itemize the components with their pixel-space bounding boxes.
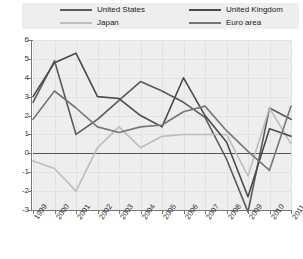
legend-column-left: United States Japan xyxy=(60,3,145,29)
y-tick-label-3: 3 xyxy=(3,93,29,101)
legend-item-united-states[interactable]: United States xyxy=(60,3,145,16)
y-tick-label-0: 0 xyxy=(3,149,29,157)
series-lines xyxy=(33,40,291,210)
y-tick-label-wrap: -3 xyxy=(0,206,29,214)
y-tick-label-wrap: 3 xyxy=(0,93,29,101)
y-tick-label-wrap: -2 xyxy=(0,187,29,195)
chart-legend: United States Japan United Kingdom Euro … xyxy=(22,3,299,29)
legend-label-united-kingdom: United Kingdom xyxy=(226,5,283,14)
gridline-vertical-2011 xyxy=(291,40,292,210)
series-line-euro-area xyxy=(33,91,291,170)
chart-screenshot: United States Japan United Kingdom Euro … xyxy=(0,0,303,259)
legend-swatch-japan xyxy=(60,22,92,24)
legend-label-united-states: United States xyxy=(97,5,145,14)
legend-swatch-united-states xyxy=(60,9,92,11)
legend-label-japan: Japan xyxy=(97,18,119,27)
y-tick-label--3: -3 xyxy=(3,206,29,214)
y-tick-label-6: 6 xyxy=(3,36,29,44)
legend-swatch-united-kingdom xyxy=(189,9,221,11)
y-tick-label-2: 2 xyxy=(3,112,29,120)
legend-swatch-euro-area xyxy=(189,22,221,24)
legend-item-euro-area[interactable]: Euro area xyxy=(189,16,283,29)
y-axis-line xyxy=(31,40,32,210)
legend-item-united-kingdom[interactable]: United Kingdom xyxy=(189,3,283,16)
y-tick-label--2: -2 xyxy=(3,187,29,195)
y-tick-label-wrap: 2 xyxy=(0,112,29,120)
y-tick-label-wrap: 0 xyxy=(0,149,29,157)
y-tick-label-wrap: 1 xyxy=(0,130,29,138)
y-tick-label--1: -1 xyxy=(3,168,29,176)
legend-item-japan[interactable]: Japan xyxy=(60,16,145,29)
y-tick-label-wrap: -1 xyxy=(0,168,29,176)
y-tick-label-wrap: 5 xyxy=(0,55,29,63)
legend-column-right: United Kingdom Euro area xyxy=(189,3,283,29)
y-tick-label-wrap: 4 xyxy=(0,74,29,82)
y-tick-label-wrap: 6 xyxy=(0,36,29,44)
legend-label-euro-area: Euro area xyxy=(226,18,261,27)
plot-area xyxy=(33,40,291,210)
y-tick-label-5: 5 xyxy=(3,55,29,63)
y-tick-label-1: 1 xyxy=(3,130,29,138)
y-tick-label-4: 4 xyxy=(3,74,29,82)
